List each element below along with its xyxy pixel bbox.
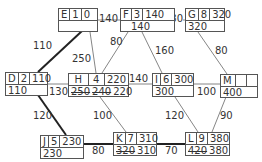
node-l-ls: 380 [207, 145, 230, 156]
node-m: M 400 [220, 74, 258, 98]
node-f-es: 140 [142, 9, 166, 20]
weight-i-m: 100 [197, 86, 216, 97]
node-h-ls-struck-2: 240 [90, 86, 111, 97]
node-e-es: 0 [81, 9, 92, 20]
node-i-duration: 6 [160, 74, 171, 85]
node-m-ls: 400 [221, 87, 244, 98]
network-diagram: 140 110 250 80 160 80 130 140 100 120 10… [0, 0, 262, 162]
node-i: I6300 300 [152, 73, 194, 97]
weight-e-h: 250 [72, 53, 91, 64]
node-l: L9380 420380 [185, 132, 230, 156]
node-m-es [246, 75, 257, 86]
node-j: J5230 230 [40, 135, 84, 159]
node-g-es: 320 [209, 9, 233, 20]
node-k-ls: 310 [135, 145, 158, 156]
weight-e-d: 110 [33, 40, 52, 51]
node-m-name: M [221, 75, 235, 86]
weight-h-k: 100 [93, 110, 112, 121]
node-d-name: D [6, 73, 18, 84]
weight-d-h: 130 [49, 86, 68, 97]
node-f-name: F [121, 9, 131, 20]
weight-j-k: 80 [92, 145, 105, 156]
node-k-es: 310 [136, 133, 160, 144]
node-h: H4220 250240220 [68, 73, 129, 97]
weight-d-j: 120 [33, 110, 52, 121]
node-l-duration: 9 [196, 133, 207, 144]
node-f: F3140 140 [120, 8, 175, 32]
node-k-ls-struck: 320 [114, 145, 135, 156]
node-i-ls: 300 [153, 86, 176, 97]
node-g-ls: 320 [186, 21, 209, 32]
weight-e-f: 140 [99, 13, 118, 24]
weight-h-i: 140 [129, 73, 148, 84]
node-g-name: G [186, 9, 198, 20]
node-i-name: I [153, 74, 160, 85]
node-h-ls-struck-1: 250 [69, 86, 90, 97]
node-d-es: 110 [29, 73, 53, 84]
node-d-ls: 110 [6, 85, 29, 96]
node-j-duration: 5 [48, 136, 59, 147]
node-k-duration: 7 [125, 133, 136, 144]
weight-k-l: 70 [165, 145, 178, 156]
weight-f-h: 80 [110, 36, 123, 47]
node-j-ls: 230 [41, 148, 64, 159]
node-e-name: E [59, 9, 69, 20]
node-k: K7310 320310 [113, 132, 157, 156]
node-j-name: J [41, 136, 48, 147]
weight-i-l: 120 [165, 110, 184, 121]
weight-g-m: 80 [215, 45, 228, 56]
edge-e-d-critical [38, 31, 82, 72]
node-h-duration: 4 [88, 74, 104, 85]
node-l-name: L [186, 133, 196, 144]
weight-m-l: 90 [220, 110, 233, 121]
node-g: G8320 320 [185, 8, 225, 32]
node-l-ls-struck: 420 [186, 145, 207, 156]
weight-f-i: 160 [155, 45, 174, 56]
node-e-ls [59, 21, 63, 32]
node-e-duration: 1 [69, 9, 80, 20]
node-d-duration: 2 [18, 73, 29, 84]
node-e: E10 [58, 8, 98, 32]
node-i-es: 300 [171, 74, 195, 85]
node-j-es: 230 [59, 136, 83, 147]
node-m-duration [235, 75, 246, 86]
node-l-es: 380 [207, 133, 231, 144]
node-d: D2110 110 [5, 72, 48, 96]
node-h-name: H [69, 74, 88, 85]
node-f-ls: 140 [121, 21, 152, 32]
node-f-duration: 3 [131, 9, 142, 20]
node-h-ls: 220 [111, 86, 134, 97]
node-h-es: 220 [104, 74, 128, 85]
node-k-name: K [114, 133, 125, 144]
node-g-duration: 8 [198, 9, 209, 20]
